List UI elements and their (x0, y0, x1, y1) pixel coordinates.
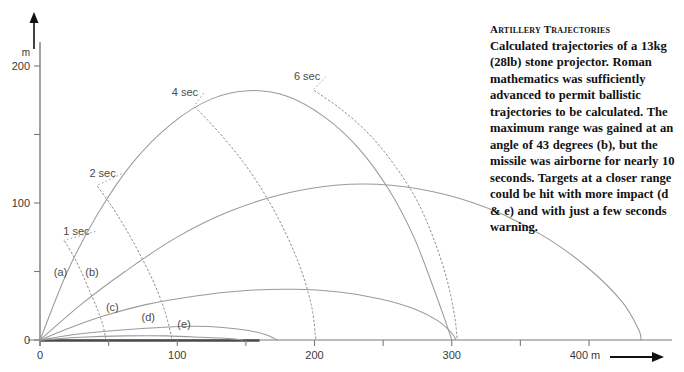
y-tick-label: 0 (24, 334, 30, 346)
isochrone-curve-4sec (195, 107, 316, 340)
y-tick-label: 100 (12, 197, 30, 209)
x-tick-label: 200 (305, 349, 323, 361)
x-tick-label: 400 m (570, 349, 601, 361)
caption-body: Calculated trajectories of a 13kg (28lb)… (490, 38, 680, 236)
y-axis-arrow-icon (30, 12, 39, 49)
trajectory-curve-c (40, 289, 456, 340)
caption-block: Artillery Trajectories Calculated trajec… (490, 22, 680, 236)
trajectory-label-b: (b) (85, 266, 98, 278)
y-tick-label: 200 (12, 60, 30, 72)
x-tick-label: 300 (443, 349, 461, 361)
x-axis-arrow-icon (610, 352, 664, 362)
trajectory-curve-a (40, 91, 452, 340)
y-axis-unit-label: m (22, 47, 30, 58)
caption-title: Artillery Trajectories (490, 22, 680, 37)
trajectory-label-d: (d) (142, 311, 155, 323)
x-tick-label: 0 (37, 349, 43, 361)
isochrone-curve-6sec (315, 91, 458, 340)
trajectory-label-a: (a) (54, 266, 67, 278)
isochrone-label-2sec: 2 sec (89, 167, 116, 179)
isochrone-label-6sec: 6 sec (294, 70, 321, 82)
isochrone-label-4sec: 4 sec (172, 86, 199, 98)
figure-page: 0100200300400 m0100200m1 sec2 sec4 sec6 … (0, 0, 684, 372)
isochrone-curve-1sec (65, 241, 106, 340)
isochrone-curve-2sec (98, 187, 172, 340)
x-tick-label: 100 (168, 349, 186, 361)
trajectory-label-e: (e) (177, 318, 190, 330)
trajectory-label-c: (c) (106, 301, 119, 313)
